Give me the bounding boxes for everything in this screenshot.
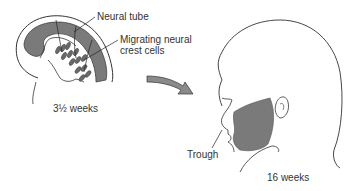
diagram-canvas: [0, 0, 355, 191]
embryo-illustration: [16, 16, 118, 104]
leader-trough: [212, 130, 222, 148]
caption-16-weeks: 16 weeks: [267, 172, 309, 183]
label-neural-crest-line1: Migrating neural: [120, 34, 192, 45]
label-neural-tube: Neural tube: [97, 11, 149, 22]
fetus-illustration: [212, 20, 342, 172]
label-neural-crest-line2: crest cells: [120, 45, 164, 56]
caption-3-5-weeks: 3½ weeks: [53, 103, 98, 114]
label-trough: Trough: [187, 149, 218, 160]
transition-arrow-icon: [147, 76, 193, 94]
